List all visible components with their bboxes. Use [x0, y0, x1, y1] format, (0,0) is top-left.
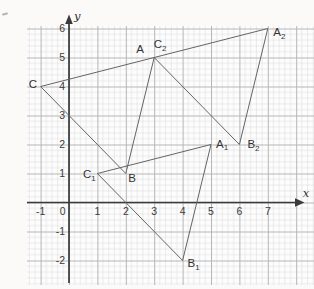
point-letter: C — [29, 78, 37, 90]
y-axis-label: y — [73, 9, 81, 23]
point-subscript: 2 — [281, 32, 286, 41]
point-letter: B — [128, 172, 136, 184]
point-subscript: 1 — [224, 143, 229, 152]
point-letter: C — [83, 168, 91, 180]
x-tick-label--1: -1 — [36, 205, 45, 217]
point-label-A: A — [136, 43, 144, 55]
y-tick-label-5: 5 — [59, 51, 65, 63]
geometry-figure: y x -101234567654321-1-2 ABCA1B1C1A2B2C2 — [0, 0, 314, 289]
y-tick-label--1: -1 — [56, 225, 65, 237]
y-tick-label-2: 2 — [59, 138, 65, 150]
point-subscript: 1 — [195, 263, 200, 272]
y-tick-label--2: -2 — [56, 254, 65, 266]
diagram-canvas: y x -101234567654321-1-2 ABCA1B1C1A2B2C2 — [0, 0, 314, 289]
y-tick-label-1: 1 — [59, 167, 65, 179]
x-tick-label-3: 3 — [151, 205, 157, 217]
x-tick-label-0: 0 — [60, 205, 66, 217]
point-label-C: C — [29, 78, 37, 90]
point-letter: A — [136, 43, 144, 55]
y-axis-arrow-icon — [65, 15, 73, 25]
x-tick-label-6: 6 — [236, 205, 242, 217]
x-tick-label-7: 7 — [265, 205, 271, 217]
x-tick-label-4: 4 — [180, 205, 186, 217]
point-subscript: 1 — [91, 174, 96, 183]
x-tick-label-1: 1 — [94, 205, 100, 217]
point-label-B: B — [128, 172, 136, 184]
point-subscript: 2 — [162, 44, 167, 53]
graph-paper — [27, 26, 314, 285]
y-tick-label-6: 6 — [59, 22, 65, 34]
x-tick-label-2: 2 — [123, 205, 129, 217]
x-axis-label: x — [303, 186, 310, 200]
y-tick-label-4: 4 — [59, 80, 65, 92]
y-tick-label-3: 3 — [59, 109, 65, 121]
point-letter: C — [154, 38, 162, 50]
point-subscript: 2 — [255, 144, 260, 153]
x-tick-label-5: 5 — [208, 205, 214, 217]
